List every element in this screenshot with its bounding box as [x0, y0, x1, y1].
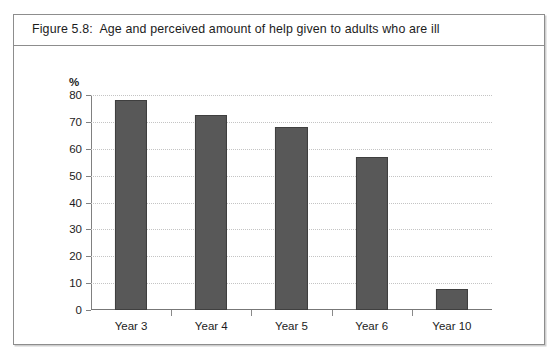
- y-axis-label-10: 10: [69, 277, 82, 289]
- bar-year-3[interactable]: [115, 100, 147, 310]
- figure-frame: Figure 5.8: Age and perceived amount of …: [13, 14, 545, 345]
- x-tick: [251, 310, 252, 316]
- chart-plot-region: % 01020304050607080 Year 3Year 4Year 5Ye…: [14, 46, 544, 344]
- y-axis-label-20: 20: [69, 250, 82, 262]
- category-band: Year 5: [251, 95, 331, 310]
- category-band: Year 10: [412, 95, 492, 310]
- category-band: Year 6: [332, 95, 412, 310]
- y-axis-label-30: 30: [69, 223, 82, 235]
- x-tick: [171, 310, 172, 316]
- y-axis-label-40: 40: [69, 197, 82, 209]
- bar-year-5[interactable]: [275, 127, 307, 310]
- chart-plot-area: 01020304050607080 Year 3Year 4Year 5Year…: [91, 95, 492, 310]
- x-axis-label-year-10: Year 10: [432, 320, 471, 332]
- y-axis-label-80: 80: [69, 89, 82, 101]
- y-axis-label-50: 50: [69, 170, 82, 182]
- y-axis-label-70: 70: [69, 116, 82, 128]
- bar-year-6[interactable]: [356, 157, 388, 310]
- x-tick: [412, 310, 413, 316]
- x-axis-label-year-4: Year 4: [195, 320, 228, 332]
- x-axis-label-year-5: Year 5: [275, 320, 308, 332]
- y-tick-0: [86, 310, 91, 311]
- category-band: Year 3: [91, 95, 171, 310]
- y-axis-label-60: 60: [69, 143, 82, 155]
- figure-caption: Figure 5.8: Age and perceived amount of …: [32, 22, 440, 36]
- y-axis-unit-label: %: [69, 76, 79, 88]
- category-band: Year 4: [171, 95, 251, 310]
- figure-caption-band: Figure 5.8: Age and perceived amount of …: [14, 15, 544, 46]
- x-axis-label-year-3: Year 3: [115, 320, 148, 332]
- x-tick: [332, 310, 333, 316]
- y-axis-label-0: 0: [76, 304, 82, 316]
- bar-year-4[interactable]: [195, 115, 227, 310]
- bar-year-10[interactable]: [436, 289, 468, 311]
- x-axis-label-year-6: Year 6: [355, 320, 388, 332]
